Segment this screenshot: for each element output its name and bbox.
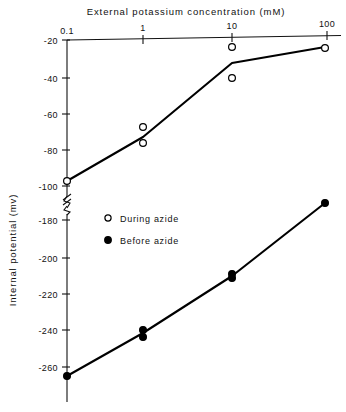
legend-label-before-azide: Before azide: [120, 236, 179, 246]
y-tick-label-u2: -60: [44, 110, 58, 120]
x-tick-label-0: 0.1: [60, 26, 74, 36]
axis-break-icon: [63, 194, 71, 215]
data-point-open: [322, 45, 329, 52]
x-tick-label-3: 100: [319, 19, 335, 29]
x-axis-line: [67, 36, 341, 41]
y-tick-label-l0: -180: [38, 216, 58, 226]
potassium-potential-chart: 0.1 1 10 100 External potassium concentr…: [0, 0, 346, 412]
data-point-open: [64, 178, 71, 185]
open-circle-icon: [105, 215, 111, 221]
y-tick-label-u1: -40: [44, 74, 58, 84]
legend-label-during-azide: During azide: [120, 214, 179, 224]
legend-item-during-azide: During azide: [105, 214, 179, 224]
data-point-filled: [229, 275, 236, 282]
chart-legend: During azide Before azide: [105, 214, 179, 246]
data-point-open: [140, 140, 147, 147]
y-tick-label-l3: -240: [38, 326, 58, 336]
data-point-open: [229, 44, 236, 51]
series-during-azide-line: [67, 47, 325, 181]
y-tick-label-l1: -200: [38, 254, 58, 264]
data-point-open: [140, 124, 147, 131]
y-tick-label-u3: -80: [44, 146, 58, 156]
series-during-azide: [64, 44, 329, 185]
x-axis: [67, 31, 341, 44]
y-tick-label-l2: -220: [38, 290, 58, 300]
y-tick-label-l4: -260: [38, 363, 58, 373]
series-before-azide-line: [67, 203, 325, 376]
data-point-filled: [64, 373, 71, 380]
x-tick-label-1: 1: [140, 23, 145, 33]
y-tick-label-u4: -100: [38, 182, 58, 192]
y-axis-title: Internal potential (mv): [7, 194, 18, 307]
data-point-filled: [140, 327, 147, 334]
data-point-filled: [322, 200, 329, 207]
data-point-open: [229, 75, 236, 82]
data-point-filled: [140, 334, 147, 341]
x-axis-title: External potassium concentration (mM): [87, 6, 286, 17]
series-before-azide: [64, 200, 329, 380]
figure-container: 0.1 1 10 100 External potassium concentr…: [0, 0, 346, 412]
x-tick-label-2: 10: [227, 21, 238, 31]
legend-item-before-azide: Before azide: [105, 236, 179, 246]
y-tick-label-u0: -20: [44, 36, 58, 46]
filled-circle-icon: [105, 237, 112, 244]
y-axis: [62, 40, 70, 402]
